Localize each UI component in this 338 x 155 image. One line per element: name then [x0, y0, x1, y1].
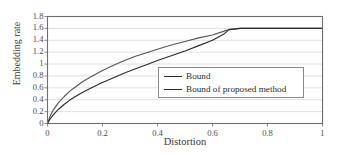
x-axis-title: Distortion: [47, 136, 323, 147]
y-tick-label: 0.8: [20, 70, 44, 80]
x-tick-label: 1: [311, 128, 335, 138]
y-tick-label: 1.2: [20, 46, 44, 56]
x-tick-label: 0.8: [256, 128, 280, 138]
legend-entry-bound: Bound: [164, 70, 211, 83]
legend-entry-proposed: Bound of proposed method: [164, 83, 286, 96]
y-tick-label: 0.4: [20, 94, 44, 104]
chart-figure: Embedding rate Distortion 00.20.40.60.81…: [0, 0, 338, 155]
y-tick-label: 0.2: [20, 106, 44, 116]
legend-label: Bound: [186, 71, 211, 82]
y-tick-label: 1.4: [20, 34, 44, 44]
y-tick-label: 0: [20, 118, 44, 128]
x-tick-label: 0.2: [91, 128, 115, 138]
chart-legend: Bound Bound of proposed method: [158, 67, 304, 98]
legend-line-icon: [164, 89, 182, 90]
y-tick-label: 0.6: [20, 82, 44, 92]
y-tick-label: 1: [20, 58, 44, 68]
x-tick-label: 0.4: [146, 128, 170, 138]
y-tick-label: 1.6: [20, 22, 44, 32]
legend-line-icon: [164, 76, 182, 77]
x-tick-label: 0: [36, 128, 60, 138]
y-tick-label: 1.8: [20, 11, 44, 21]
x-tick-label: 0.6: [201, 128, 225, 138]
legend-label: Bound of proposed method: [186, 84, 286, 95]
